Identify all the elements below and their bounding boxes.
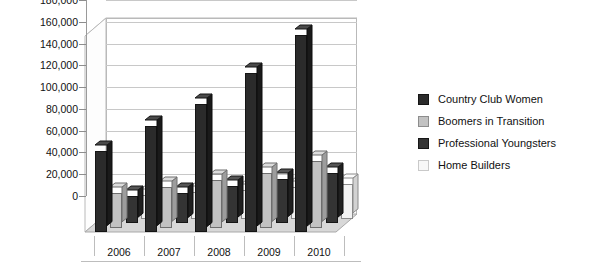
legend-item-label: Boomers in Transition: [438, 115, 544, 127]
x-axis-separator: [294, 236, 295, 256]
y-axis-tick-mark: [79, 22, 86, 23]
y-axis-tick-label: 100,000: [40, 82, 78, 92]
y-axis-tick-mark: [79, 196, 86, 197]
legend-item[interactable]: Boomers in Transition: [418, 112, 588, 130]
y-axis-tick-label: 40,000: [46, 147, 78, 157]
y-axis-tick-mark: [79, 131, 86, 132]
x-axis-separator: [194, 236, 195, 256]
y-axis-tick-mark: [79, 109, 86, 110]
bar-3d-faces: [195, 98, 214, 232]
gridline: [106, 0, 357, 1]
x-axis-tick-label: 2006: [107, 246, 130, 258]
y-axis-tick-label: 0: [72, 191, 78, 201]
y-axis-tick-mark: [79, 44, 86, 45]
legend-item-label: Home Builders: [438, 159, 510, 171]
y-axis-tick-label: 20,000: [46, 169, 78, 179]
y-axis-tick-label: 120,000: [40, 60, 78, 70]
bar: [195, 104, 207, 232]
x-axis-separator: [344, 236, 345, 256]
legend-item-label: Professional Youngsters: [438, 137, 556, 149]
chart-legend: Country Club WomenBoomers in TransitionP…: [418, 90, 588, 178]
y-axis-tick-label: 60,000: [46, 126, 78, 136]
x-axis-tick-label: 2007: [157, 246, 180, 258]
y-axis-tick-label: 140,000: [40, 39, 78, 49]
y-axis-spine: [86, 0, 87, 196]
y-axis-tick-mark: [79, 65, 86, 66]
bar-3d-faces: [95, 145, 114, 232]
bar: [95, 151, 107, 232]
y-axis-tick-mark: [79, 174, 86, 175]
bar: [295, 35, 307, 232]
x-axis-tick-label: 2008: [207, 246, 230, 258]
legend-item[interactable]: Home Builders: [418, 156, 588, 174]
y-axis: 020,00040,00060,00080,000100,000120,0001…: [0, 0, 78, 269]
legend-swatch-icon: [418, 160, 429, 171]
x-axis-separator: [144, 236, 145, 256]
x-axis-tick-label: 2009: [257, 246, 280, 258]
bar-3d-faces: [295, 29, 314, 232]
legend-swatch-icon: [418, 138, 429, 149]
legend-item-label: Country Club Women: [438, 93, 543, 105]
x-axis-separator: [94, 236, 95, 256]
legend-item[interactable]: Country Club Women: [418, 90, 588, 108]
bar-3d-faces: [245, 67, 264, 232]
y-axis-tick-label: 160,000: [40, 17, 78, 27]
y-axis-tick-mark: [79, 87, 86, 88]
legend-swatch-icon: [418, 94, 429, 105]
x-axis-tick-label: 2010: [307, 246, 330, 258]
x-axis-baseline: [81, 261, 361, 262]
y-axis-tick-mark: [79, 0, 86, 1]
bar-chart: 020,00040,00060,00080,000100,000120,0001…: [0, 0, 591, 269]
bar: [145, 126, 157, 232]
bar-3d-faces: [145, 120, 164, 232]
y-axis-tick-label: 80,000: [46, 104, 78, 114]
plot-area: [85, 18, 357, 232]
y-axis-tick-mark: [79, 152, 86, 153]
x-axis-separator: [244, 236, 245, 256]
bar: [245, 73, 257, 232]
legend-swatch-icon: [418, 116, 429, 127]
y-axis-tick-label: 180,000: [40, 0, 78, 5]
legend-item[interactable]: Professional Youngsters: [418, 134, 588, 152]
